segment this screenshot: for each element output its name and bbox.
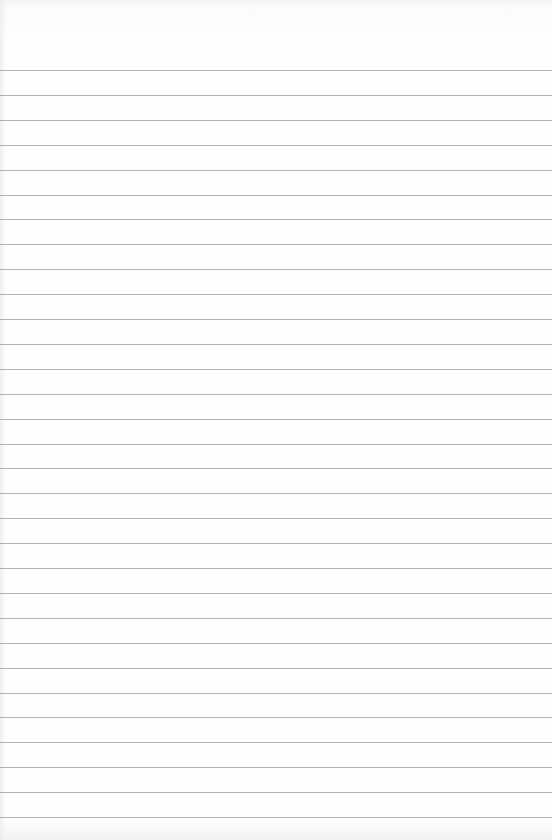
ruled-line xyxy=(0,170,552,171)
ruled-line xyxy=(0,369,552,370)
ruled-line xyxy=(0,593,552,594)
ruled-line xyxy=(0,643,552,644)
ruled-line xyxy=(0,792,552,793)
ruled-line xyxy=(0,444,552,445)
ruled-line xyxy=(0,717,552,718)
ruled-line xyxy=(0,219,552,220)
ruled-line xyxy=(0,419,552,420)
ruled-line xyxy=(0,70,552,71)
ruled-line xyxy=(0,568,552,569)
ruled-line xyxy=(0,120,552,121)
ruled-line xyxy=(0,145,552,146)
ruled-line xyxy=(0,95,552,96)
ruled-line xyxy=(0,618,552,619)
ruled-line xyxy=(0,493,552,494)
ruled-line xyxy=(0,742,552,743)
ruled-line xyxy=(0,543,552,544)
ruled-line xyxy=(0,195,552,196)
ruled-line xyxy=(0,319,552,320)
ruled-line xyxy=(0,817,552,818)
ruled-line xyxy=(0,394,552,395)
ruled-line xyxy=(0,344,552,345)
ruled-line xyxy=(0,518,552,519)
ruled-line xyxy=(0,244,552,245)
lined-paper-page xyxy=(0,0,552,840)
ruled-line xyxy=(0,693,552,694)
ruled-line xyxy=(0,767,552,768)
ruled-line xyxy=(0,294,552,295)
ruled-line xyxy=(0,269,552,270)
ruled-line xyxy=(0,468,552,469)
paper-edge xyxy=(0,0,6,840)
ruled-line xyxy=(0,668,552,669)
